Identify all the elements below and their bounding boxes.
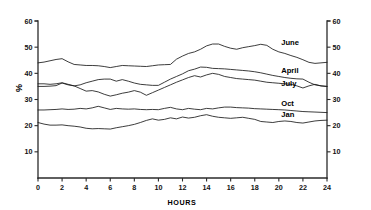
series-label-jan: Jan [281,110,294,119]
x-tick-label: 6 [108,183,112,192]
x-tick-label: 18 [251,183,259,192]
line-chart: 1010202030304040505060600246810121416182… [0,0,371,210]
y-tick-label-left: 30 [25,95,33,104]
y-tick-label-right: 30 [333,95,341,104]
series-label-july: July [281,79,297,88]
x-tick-label: 0 [36,183,40,192]
x-tick-label: 12 [179,183,187,192]
y-tick-label-left: 10 [25,147,33,156]
series-label-oct: Oct [281,99,294,108]
y-tick-label-right: 50 [333,43,341,52]
y-tick-label-left: 50 [25,43,33,52]
x-tick-label: 24 [323,183,331,192]
x-tick-label: 14 [203,183,211,192]
y-tick-label-left: 20 [25,121,33,130]
y-tick-label-left: 40 [25,69,33,78]
x-tick-label: 2 [60,183,64,192]
series-label-april: April [281,66,298,75]
x-tick-label: 8 [132,183,136,192]
chart-container: 1010202030304040505060600246810121416182… [0,0,371,210]
x-tick-label: 4 [84,183,88,192]
y-tick-label-right: 10 [333,147,341,156]
y-tick-label-right: 60 [333,17,341,26]
y-tick-label-right: 20 [333,121,341,130]
x-tick-label: 22 [299,183,307,192]
axis-titles-group: HOURS % [14,84,196,207]
x-tick-label: 16 [227,183,235,192]
series-line-june [38,44,327,68]
x-tick-label: 20 [275,183,283,192]
x-axis-title: HOURS [168,198,197,207]
series-labels-group: JuneAprilJulyOctJan [281,38,299,119]
y-tick-label-left: 60 [25,17,33,26]
y-tick-label-right: 40 [333,69,341,78]
y-axis-title: % [14,84,24,92]
x-tick-label: 10 [154,183,162,192]
series-label-june: June [281,38,299,47]
